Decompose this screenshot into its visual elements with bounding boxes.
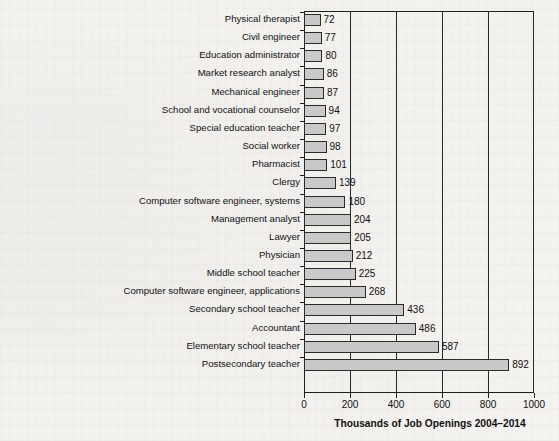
bar bbox=[304, 304, 404, 316]
category-label: Special education teacher bbox=[0, 122, 300, 133]
bar bbox=[304, 323, 416, 335]
bar bbox=[304, 268, 356, 280]
bar bbox=[304, 359, 509, 371]
bar bbox=[304, 141, 327, 153]
bar-value-label: 225 bbox=[359, 268, 376, 280]
category-label: Social worker bbox=[0, 140, 300, 151]
x-axis-tick-800 bbox=[488, 393, 489, 398]
y-axis-tick bbox=[300, 121, 304, 122]
bar-value-label: 101 bbox=[330, 159, 347, 171]
bar bbox=[304, 177, 336, 189]
x-axis-tick-600 bbox=[442, 393, 443, 398]
bar bbox=[304, 196, 345, 208]
bar-value-label: 180 bbox=[348, 196, 365, 208]
y-axis-tick bbox=[300, 212, 304, 213]
category-label: Mechanical engineer bbox=[0, 86, 300, 97]
y-axis-tick bbox=[300, 302, 304, 303]
y-axis-tick bbox=[300, 339, 304, 340]
y-axis-tick bbox=[300, 266, 304, 267]
category-label: Computer software engineer, systems bbox=[0, 195, 300, 206]
y-axis-tick bbox=[300, 321, 304, 322]
bar bbox=[304, 32, 322, 44]
x-axis-tick-0 bbox=[304, 393, 305, 398]
bar-value-label: 139 bbox=[339, 177, 356, 189]
y-axis-tick bbox=[300, 157, 304, 158]
category-label: Management analyst bbox=[0, 213, 300, 224]
bar-row: Management analyst204 bbox=[0, 212, 559, 230]
bar-value-label: 97 bbox=[329, 123, 340, 135]
y-axis-tick bbox=[300, 230, 304, 231]
bar bbox=[304, 214, 351, 226]
bar-value-label: 94 bbox=[329, 105, 340, 117]
x-axis-title: Thousands of Job Openings 2004–2014 bbox=[304, 418, 556, 429]
category-label: School and vocational counselor bbox=[0, 104, 300, 115]
category-label: Physical therapist bbox=[0, 13, 300, 24]
y-axis-tick bbox=[300, 175, 304, 176]
y-axis-tick bbox=[300, 194, 304, 195]
bar bbox=[304, 159, 327, 171]
bar-value-label: 77 bbox=[325, 32, 336, 44]
bar bbox=[304, 68, 324, 80]
category-label: Computer software engineer, applications bbox=[0, 285, 300, 296]
bar-row: Secondary school teacher436 bbox=[0, 302, 559, 320]
bar-row: Elementary school teacher587 bbox=[0, 339, 559, 357]
bar bbox=[304, 14, 321, 26]
bar bbox=[304, 105, 326, 117]
category-label: Physician bbox=[0, 249, 300, 260]
x-axis-tick-label: 200 bbox=[327, 399, 373, 410]
bar bbox=[304, 50, 322, 62]
category-label: Secondary school teacher bbox=[0, 303, 300, 314]
x-axis-tick-200 bbox=[350, 393, 351, 398]
bar-value-label: 72 bbox=[324, 14, 335, 26]
bar-value-label: 86 bbox=[327, 68, 338, 80]
category-label: Pharmacist bbox=[0, 158, 300, 169]
x-axis-tick-label: 1000 bbox=[511, 399, 557, 410]
bar bbox=[304, 232, 351, 244]
bar-row: Computer software engineer, applications… bbox=[0, 284, 559, 302]
bar-row: Education administrator80 bbox=[0, 48, 559, 66]
bar-value-label: 268 bbox=[369, 286, 386, 298]
x-axis-tick-1000 bbox=[534, 393, 535, 398]
bar-row: School and vocational counselor94 bbox=[0, 103, 559, 121]
bar-row: Civil engineer77 bbox=[0, 30, 559, 48]
bar-row: Lawyer205 bbox=[0, 230, 559, 248]
y-axis-tick bbox=[300, 66, 304, 67]
x-axis-tick-label: 400 bbox=[373, 399, 419, 410]
category-label: Elementary school teacher bbox=[0, 340, 300, 351]
y-axis-tick bbox=[300, 85, 304, 86]
bar-row: Market research analyst86 bbox=[0, 66, 559, 84]
bar-value-label: 892 bbox=[512, 359, 529, 371]
bar-value-label: 486 bbox=[419, 323, 436, 335]
bar bbox=[304, 341, 439, 353]
bar-row: Physical therapist72 bbox=[0, 12, 559, 30]
bar-row: Clergy139 bbox=[0, 175, 559, 193]
category-label: Lawyer bbox=[0, 231, 300, 242]
bar-value-label: 436 bbox=[407, 304, 424, 316]
bar-value-label: 212 bbox=[356, 250, 373, 262]
bar-value-label: 204 bbox=[354, 214, 371, 226]
category-label: Accountant bbox=[0, 322, 300, 333]
bar-row: Social worker98 bbox=[0, 139, 559, 157]
y-axis-tick bbox=[300, 48, 304, 49]
bar-value-label: 87 bbox=[327, 87, 338, 99]
category-label: Middle school teacher bbox=[0, 267, 300, 278]
y-axis-tick bbox=[300, 12, 304, 13]
bar-value-label: 205 bbox=[354, 232, 371, 244]
y-axis-tick bbox=[300, 284, 304, 285]
bar-row: Pharmacist101 bbox=[0, 157, 559, 175]
x-axis-tick-400 bbox=[396, 393, 397, 398]
bar-row: Middle school teacher225 bbox=[0, 266, 559, 284]
x-axis-tick-label: 600 bbox=[419, 399, 465, 410]
bar-value-label: 587 bbox=[442, 341, 459, 353]
category-label: Civil engineer bbox=[0, 31, 300, 42]
category-label: Market research analyst bbox=[0, 67, 300, 78]
bar bbox=[304, 286, 366, 298]
y-axis-tick bbox=[300, 248, 304, 249]
bar-row: Special education teacher97 bbox=[0, 121, 559, 139]
y-axis-tick bbox=[300, 357, 304, 358]
y-axis-tick bbox=[300, 30, 304, 31]
x-axis-tick-label: 0 bbox=[281, 399, 327, 410]
bar-value-label: 98 bbox=[330, 141, 341, 153]
bar-row: Mechanical engineer87 bbox=[0, 85, 559, 103]
bar-row: Computer software engineer, systems180 bbox=[0, 194, 559, 212]
